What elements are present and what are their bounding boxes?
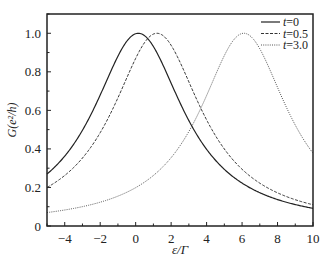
x-tick-label: 4 — [203, 231, 210, 246]
y-tick-label: 0.2 — [25, 180, 41, 195]
y-tick-label: 0.4 — [25, 141, 42, 156]
y-tick-label: 0 — [35, 219, 42, 234]
y-tick-label: 1.0 — [25, 26, 41, 41]
x-tick-label: −2 — [93, 231, 107, 246]
x-tick-label: 0 — [132, 231, 139, 246]
y-tick-label: 0.6 — [25, 103, 42, 118]
legend-label: t=3.0 — [283, 38, 308, 52]
series-line-1 — [47, 33, 313, 204]
y-axis-label: G(e²/h) — [5, 103, 19, 138]
x-tick-label: 8 — [274, 231, 281, 246]
chart: −4−20246810 00.20.40.60.81.0 ε/Γ G(e²/h)… — [0, 0, 328, 266]
x-tick-label: 6 — [239, 231, 246, 246]
y-tick-label: 0.8 — [25, 64, 41, 79]
x-tick-label: −4 — [58, 231, 72, 246]
legend: t=0t=0.5t=3.0 — [261, 15, 308, 52]
x-axis-label: ε/Γ — [172, 242, 189, 257]
series-line-0 — [47, 33, 313, 208]
plot-frame — [47, 14, 313, 226]
plot-lines — [47, 33, 313, 212]
x-tick-label: 10 — [307, 231, 320, 246]
